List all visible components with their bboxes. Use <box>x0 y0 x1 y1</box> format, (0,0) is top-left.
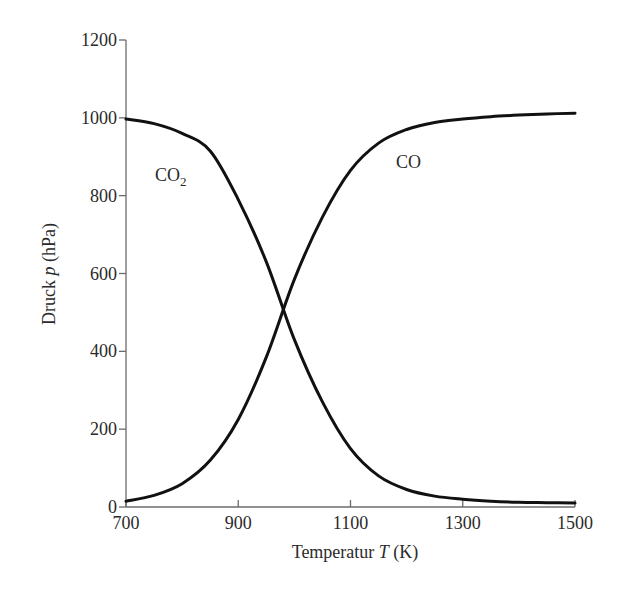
x-tick-labels: 700900110013001500 <box>113 513 594 533</box>
chart: 020040060080010001200 700900110013001500… <box>0 0 626 592</box>
x-axis-title: Temperatur T (K) <box>292 542 419 563</box>
y-tick-label: 600 <box>90 264 117 284</box>
x-tick-label: 1500 <box>557 513 593 533</box>
y-tick-label: 400 <box>90 341 117 361</box>
series-label-co: CO <box>396 152 421 172</box>
series-line-co <box>126 113 575 501</box>
x-tick-label: 700 <box>113 513 140 533</box>
y-tick-labels: 020040060080010001200 <box>81 30 117 517</box>
series-line-co2 <box>126 119 575 503</box>
series-lines <box>126 113 575 503</box>
x-tick-label: 1300 <box>445 513 481 533</box>
x-tick-label: 1100 <box>333 513 368 533</box>
axes <box>119 40 575 507</box>
y-tick-label: 800 <box>90 186 117 206</box>
x-tick-label: 900 <box>225 513 252 533</box>
y-tick-label: 200 <box>90 419 117 439</box>
y-axis-title: Druck p (hPa) <box>39 223 60 325</box>
y-tick-label: 1200 <box>81 30 117 50</box>
series-label-co2: CO2 <box>155 165 187 189</box>
y-tick-label: 1000 <box>81 108 117 128</box>
